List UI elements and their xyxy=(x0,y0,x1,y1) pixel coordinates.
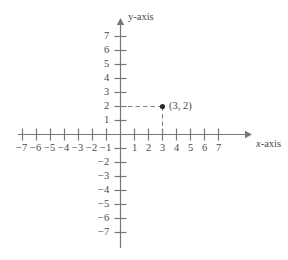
y-tick-label--7: −7 xyxy=(98,227,109,238)
y-tick-label--3: −3 xyxy=(98,171,109,182)
point-coordinate-label: (3, 2) xyxy=(169,101,192,112)
y-tick-label-2: 2 xyxy=(104,101,109,112)
x-tick-label--4: −4 xyxy=(58,143,69,154)
x-tick-label--2: −2 xyxy=(86,143,97,154)
x-axis-label: x-axis xyxy=(256,139,281,150)
x-tick-label-2: 2 xyxy=(146,143,151,154)
y-tick-label-4: 4 xyxy=(104,73,109,84)
x-tick-label--6: −6 xyxy=(30,143,41,154)
x-tick-label-6: 6 xyxy=(202,143,207,154)
x-tick-label-5: 5 xyxy=(188,143,193,154)
x-tick-label--3: −3 xyxy=(72,143,83,154)
x-tick-label--7: −7 xyxy=(16,143,27,154)
y-tick-label-5: 5 xyxy=(104,59,109,70)
x-tick-label-7: 7 xyxy=(216,143,221,154)
x-tick-label-4: 4 xyxy=(174,143,179,154)
y-tick-label-1: 1 xyxy=(104,115,109,126)
y-tick-label-7: 7 xyxy=(104,31,109,42)
coordinate-plane-figure: −7 −6 −5 −4 −3 −2 −1 1 2 3 4 5 6 7 7 6 5… xyxy=(0,0,288,260)
axes-svg xyxy=(0,0,288,260)
x-tick-label-3: 3 xyxy=(160,143,165,154)
x-tick-label--1: −1 xyxy=(100,143,111,154)
plotted-point xyxy=(160,104,165,109)
x-axis-label-rest: -axis xyxy=(261,138,281,149)
y-axis-label: y-axis xyxy=(128,12,154,23)
y-tick-label--4: −4 xyxy=(98,185,109,196)
x-tick-label--5: −5 xyxy=(44,143,55,154)
y-tick-label-6: 6 xyxy=(104,45,109,56)
y-tick-label--6: −6 xyxy=(98,213,109,224)
x-tick-label-1: 1 xyxy=(132,143,137,154)
y-tick-label--5: −5 xyxy=(98,199,109,210)
y-axis-arrowhead xyxy=(117,18,124,25)
y-tick-label--2: −2 xyxy=(98,157,109,168)
y-tick-label-3: 3 xyxy=(104,87,109,98)
x-axis-arrowhead xyxy=(245,131,252,138)
